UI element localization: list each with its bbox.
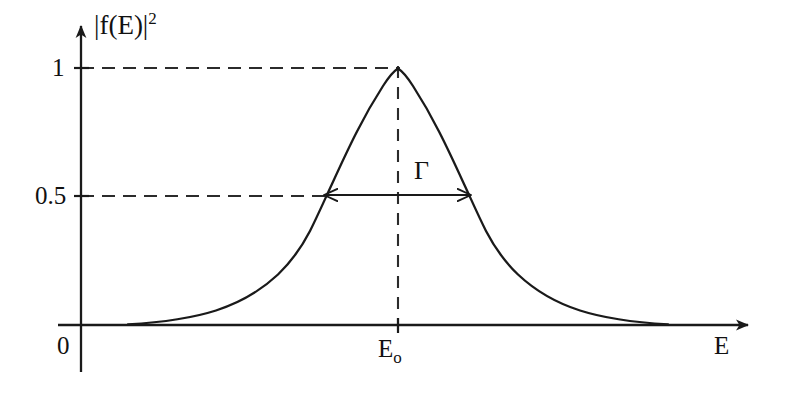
y-axis-label-exponent: 2 — [148, 9, 157, 28]
y-axis-label-base: |f(E)| — [94, 10, 148, 40]
peak-center-label-base: E — [378, 335, 393, 362]
peak-center-label-subscript: o — [393, 348, 402, 367]
y-axis-label: |f(E)|2 — [94, 12, 157, 39]
resonance-figure: |f(E)|2 1 0.5 0 E Eo Γ — [0, 0, 788, 406]
origin-label: 0 — [57, 333, 70, 358]
y-tick-label-half: 0.5 — [35, 183, 66, 208]
y-tick-label-one: 1 — [52, 55, 65, 80]
peak-center-label: Eo — [378, 336, 402, 361]
fwhm-gamma-label: Γ — [414, 158, 429, 184]
x-axis-label: E — [714, 333, 729, 358]
